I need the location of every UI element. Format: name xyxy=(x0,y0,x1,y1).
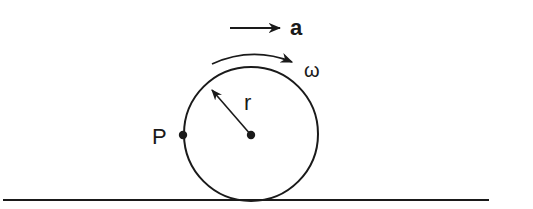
radius-label: r xyxy=(244,90,251,115)
acceleration-label: a xyxy=(290,15,303,40)
angular-velocity-arrow-icon xyxy=(212,54,292,64)
point-p-label: P xyxy=(152,124,167,149)
angular-velocity-label: ω xyxy=(304,59,320,81)
rolling-wheel-diagram: a ω r P xyxy=(0,0,533,209)
center-dot xyxy=(247,131,255,139)
point-p-dot xyxy=(179,131,187,139)
